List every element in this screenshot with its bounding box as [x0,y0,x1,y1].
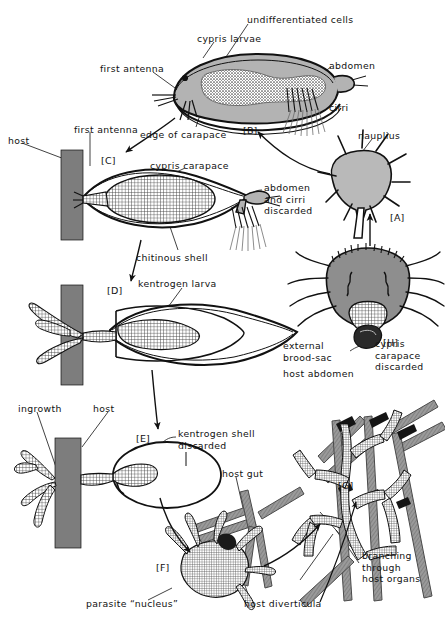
arrow-d-to-e [152,370,158,429]
label-chitinous-shell: chitinous shell [136,252,208,264]
stage-label-c: [C] [101,155,116,166]
label-cypris-carapace: cypris carapace [150,160,229,172]
label-host-top: host [8,135,29,147]
stage-label-f: [F] [156,562,169,573]
label-cypris-larvae: cypris larvae [197,33,261,45]
label-kentrogen-shell-discarded: kentrogen shell discarded [178,428,255,451]
label-abdomen-top: abdomen [329,60,375,72]
label-ingrowth: ingrowth [18,403,62,415]
stage-label-g: [G] [338,480,353,491]
label-external-brood-sac: external brood-sac [283,340,332,363]
arrow-a-to-b [258,132,330,174]
label-host-middle: host [93,403,114,415]
life-cycle-diagram-svg [0,0,445,643]
label-edge-of-carapace: edge of carapace [140,129,226,141]
label-cypris-carapace-discarded: cypris carapace discarded [375,338,423,373]
stage-label-b: [B] [243,125,258,136]
stage-e-shell-discarded [14,438,221,548]
stage-label-d: [D] [107,285,122,296]
label-parasite-nucleus: parasite “nucleus” [86,598,178,610]
stage-label-a: [A] [390,212,405,223]
label-kentrogen-larva: kentrogen larva [138,278,217,290]
label-branching-through-host-organs: branching through host organs [362,550,421,585]
label-host-diverticula: host diverticula [244,598,322,610]
stage-h-infected-crab [288,243,444,348]
label-cirri: cirri [329,102,349,114]
label-first-antenna-c: first antenna [74,124,138,136]
label-undifferentiated-cells: undifferentiated cells [247,14,353,26]
label-nauplius: nauplius [358,130,400,142]
stage-label-e: [E] [136,433,150,444]
figure-canvas: [A] [B] [C] [D] [E] [F] [G] [H] undiffer… [0,0,445,643]
label-abdomen-and-cirri-discarded: abdomen and cirri discarded [264,182,312,217]
label-host-abdomen: host abdomen [283,368,354,380]
stage-d-kentrogen-larva [29,285,297,385]
label-first-antenna-top: first antenna [100,63,164,75]
label-host-gut: host gut [222,468,263,480]
